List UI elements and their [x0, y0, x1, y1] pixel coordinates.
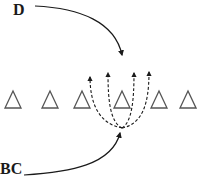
- triangle-icon: [74, 91, 90, 108]
- diagram-svg: [0, 0, 197, 187]
- triangle-row: [5, 91, 196, 108]
- label-bc: BC: [0, 161, 22, 177]
- dashed-arrow-2: [108, 73, 122, 128]
- label-d: D: [13, 2, 25, 18]
- arrow-from-bc: [24, 133, 120, 175]
- triangle-icon: [5, 91, 21, 108]
- dashed-fan-arrows: [90, 72, 149, 128]
- triangle-icon: [114, 91, 130, 108]
- triangle-icon: [42, 91, 58, 108]
- triangle-icon: [151, 91, 167, 108]
- dashed-arrow-3: [122, 73, 134, 128]
- diagram-canvas: [0, 0, 197, 187]
- arrow-from-d: [35, 6, 122, 55]
- triangle-icon: [180, 91, 196, 108]
